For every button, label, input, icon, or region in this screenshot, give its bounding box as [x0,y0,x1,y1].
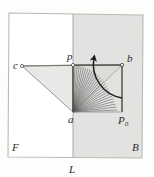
label-point-b: b [127,52,133,64]
point-marker-b [120,63,123,66]
point-marker-c [20,64,23,67]
label-region-back: B [132,141,139,153]
point-marker-p [71,63,74,66]
label-point-P0-subscript: 0 [125,120,129,128]
geometry-figure: c p b a P0 F B L [0,0,154,177]
label-point-p: p [66,50,73,62]
label-divider-L: L [68,163,75,175]
figure-canvas: c p b a P0 F B L [0,0,154,177]
label-point-a: a [68,113,74,125]
label-point-c: c [13,59,18,71]
label-region-front: F [11,141,19,153]
